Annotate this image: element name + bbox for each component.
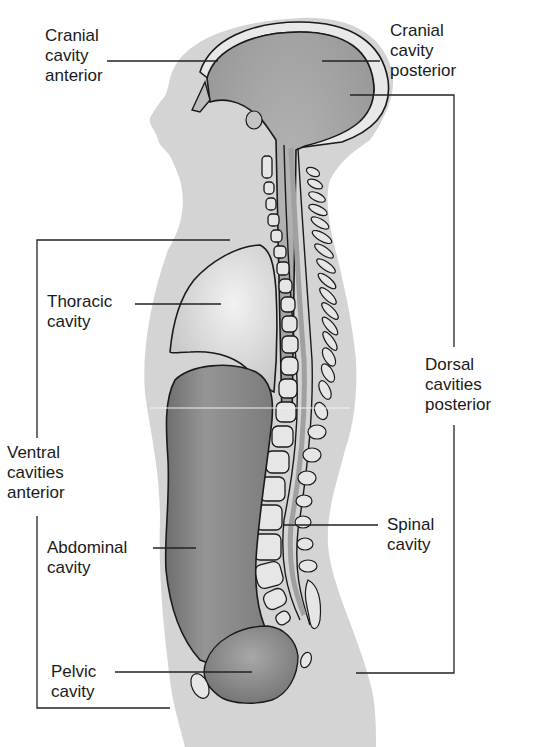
label-spinal-cavity: Spinal cavity — [387, 515, 434, 555]
label-abdominal-cavity: Abdominal cavity — [47, 538, 127, 578]
label-cranial-cavity-posterior: Cranial cavity posterior — [390, 21, 456, 81]
sphenoid-sinus — [246, 111, 262, 129]
label-thoracic-cavity: Thoracic cavity — [47, 292, 112, 332]
label-cranial-cavity-anterior: Cranial cavity anterior — [45, 26, 103, 86]
label-dorsal-cavities-posterior: Dorsal cavities posterior — [425, 355, 491, 415]
label-ventral-cavities-anterior: Ventral cavities anterior — [7, 443, 65, 503]
label-pelvic-cavity: Pelvic cavity — [51, 662, 96, 702]
